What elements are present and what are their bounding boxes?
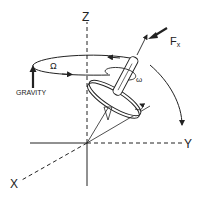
- gravity-arrow-icon: [30, 65, 37, 88]
- x-axis: [20, 143, 87, 181]
- precession-omega-symbol: Ω: [50, 61, 57, 71]
- spinning-top-diagram: Z Y X Ω GRAVITY ω: [0, 0, 203, 201]
- z-axis-label: Z: [82, 10, 89, 24]
- precession-direction-arrow-icon: [108, 57, 120, 58]
- precession-path: [33, 55, 130, 75]
- x-axis-label: X: [10, 177, 18, 191]
- spin-omega-symbol: ω: [136, 75, 142, 84]
- nutation-arc-arrow-icon: [150, 65, 182, 125]
- force-label: Fx: [170, 35, 181, 48]
- y-axis-label: Y: [184, 137, 192, 151]
- force-arrow-icon: [148, 28, 167, 39]
- spin-axis-arrow-icon: [137, 35, 147, 55]
- gravity-label: GRAVITY: [16, 89, 47, 96]
